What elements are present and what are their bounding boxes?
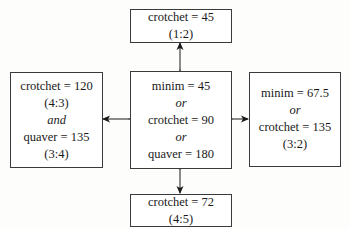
box-center-line-3: crotchet = 90 [148,112,214,129]
box-left-line-5: (3:4) [44,146,68,163]
box-left-line-1: crotchet = 120 [20,78,92,95]
box-left-line-4: quaver = 135 [23,129,89,146]
box-center: minim = 45 or crotchet = 90 or quaver = … [130,71,232,169]
box-top-line-2: (1:2) [169,26,193,43]
box-left: crotchet = 120 (4:3) and quaver = 135 (3… [10,72,103,168]
box-left-line-2: (4:3) [44,95,68,112]
box-bottom-line-2: (4:5) [169,211,193,228]
box-top: crotchet = 45 (1:2) [130,9,232,43]
box-top-line-1: crotchet = 45 [148,9,214,26]
box-bottom: crotchet = 72 (4:5) [130,194,232,227]
box-right-line-1: minim = 67.5 [261,85,329,102]
box-right-conjunction: or [289,102,300,119]
box-center-conjunction-2: or [175,129,186,146]
box-bottom-line-1: crotchet = 72 [148,194,214,211]
box-left-conjunction: and [47,112,66,129]
box-center-conjunction-1: or [175,95,186,112]
box-center-line-5: quaver = 180 [148,146,214,163]
box-right-line-4: (3:2) [283,136,307,153]
box-right-line-3: crotchet = 135 [259,119,331,136]
box-right: minim = 67.5 or crotchet = 135 (3:2) [249,72,341,167]
box-center-line-1: minim = 45 [152,78,210,95]
